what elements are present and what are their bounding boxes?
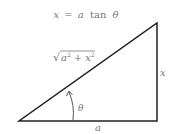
svg-text:a2+x2: a2+x2: [61, 51, 95, 63]
right-triangle-diagram: x = a tan θ √ a2+x2 θ x a: [0, 0, 173, 134]
angle-arc: [69, 92, 73, 120]
triangle: [19, 23, 157, 121]
angle-label: θ: [78, 103, 84, 113]
radical-sign: √: [53, 51, 61, 64]
hypotenuse-label: √ a2+x2: [53, 51, 95, 64]
opposite-side-label: x: [160, 67, 166, 78]
adjacent-side-label: a: [95, 122, 101, 133]
title-equation: x = a tan θ: [53, 9, 118, 20]
